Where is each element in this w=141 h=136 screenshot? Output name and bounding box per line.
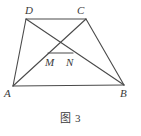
segment-group [13,19,124,86]
vertex-label-D: D [25,5,33,16]
segment-CB [86,19,124,85]
geometry-figure: D C A B M N 图 3 [0,0,141,136]
vertex-label-B: B [120,88,127,99]
vertex-label-A: A [4,88,11,99]
vertex-label-M: M [45,57,54,68]
segment-AB [13,85,124,86]
figure-caption: 图 3 [0,113,141,124]
vertex-label-C: C [77,5,84,16]
vertex-label-N: N [66,57,73,68]
